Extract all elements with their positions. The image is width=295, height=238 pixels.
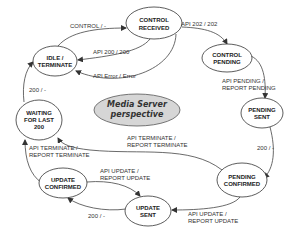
node-label: UPDATE xyxy=(51,177,75,183)
edge-label: API TERMINATE / xyxy=(127,135,176,141)
node-idle-terminate xyxy=(33,46,77,76)
edge-label: API 202 / 202 xyxy=(181,21,218,27)
edge-label: API TERMINATE / xyxy=(29,145,78,151)
edge-label: REPORT UPDATE xyxy=(188,218,238,224)
node-update-confirmed xyxy=(39,168,87,198)
node-pending-confirmed xyxy=(217,163,267,197)
diagram-svg: CONTROL RECEIVED IDLE / TERMINATE CONTRO… xyxy=(0,0,295,238)
edge-label: REPORT UPDATE xyxy=(100,175,150,181)
node-control-received xyxy=(126,7,182,39)
node-label: PENDING xyxy=(248,107,276,113)
node-label: WAITING xyxy=(26,110,52,116)
edge-label: CONTROL / - xyxy=(70,23,106,29)
state-diagram: CONTROL RECEIVED IDLE / TERMINATE CONTRO… xyxy=(0,0,295,238)
node-label: UPDATE xyxy=(136,205,160,211)
node-label: RECEIVED xyxy=(139,25,170,31)
edge-api-update-2 xyxy=(87,182,140,196)
edge-label: API PENDING / xyxy=(222,78,264,84)
edge-label: REPORT TERMINATE xyxy=(127,142,188,148)
node-label: IDLE / xyxy=(46,55,63,61)
edge-label: 200 / - xyxy=(257,145,274,151)
edge-label: API UPDATE / xyxy=(100,168,139,174)
node-label: SENT xyxy=(140,212,156,218)
diagram-title-line1: Media Server xyxy=(107,100,168,109)
edge-label: 200 / - xyxy=(88,213,105,219)
node-label: PENDING xyxy=(213,59,241,65)
edge-api-pending xyxy=(251,56,265,98)
node-update-sent xyxy=(125,196,171,226)
edge-label: REPORT TERMINATE xyxy=(29,152,90,158)
edge-label: API UPDATE / xyxy=(188,211,227,217)
node-label: SENT xyxy=(254,114,270,120)
edge-200-update xyxy=(68,198,126,210)
edge-api-update-1 xyxy=(172,197,240,210)
edge-label: API 200 / 200 xyxy=(93,49,130,55)
edge-api-202 xyxy=(182,27,227,44)
node-label: CONTROL xyxy=(212,52,242,58)
node-label: PENDING xyxy=(228,174,256,180)
edge-label: 200 / - xyxy=(29,87,46,93)
node-label: FOR LAST xyxy=(24,117,54,123)
node-control-pending xyxy=(202,44,252,72)
edge-200-pending xyxy=(264,127,273,178)
edge-label: API Error / Error xyxy=(93,73,136,79)
node-label: CONFIRMED xyxy=(224,181,261,187)
edge-api-error xyxy=(76,34,176,78)
node-label: CONFIRMED xyxy=(45,184,82,190)
edge-label: REPORT PENDING xyxy=(222,85,276,91)
diagram-title-line2: perspective xyxy=(110,110,165,119)
node-pending-sent xyxy=(241,98,283,128)
edge-200-waiting xyxy=(23,62,33,102)
node-label: 200 xyxy=(34,124,45,130)
node-label: CONTROL xyxy=(139,17,169,23)
edge-control xyxy=(58,28,126,46)
node-label: TERMINATE xyxy=(38,62,73,68)
